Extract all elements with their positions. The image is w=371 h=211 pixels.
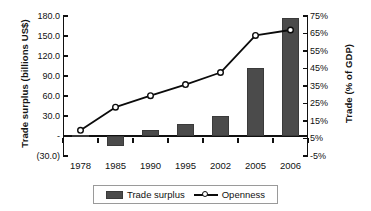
line-marker bbox=[148, 93, 154, 99]
y-axis-left-tick-label: - bbox=[22, 132, 60, 141]
legend-label-openness: Openness bbox=[222, 189, 265, 200]
y-axis-left-tick-label: 90.0 bbox=[22, 72, 60, 81]
x-axis-tick-label: 1990 bbox=[131, 160, 171, 171]
y-axis-left-tick-label: 180.0 bbox=[22, 12, 60, 21]
y-axis-right-tick-label: 15% bbox=[310, 117, 348, 126]
legend-label-trade-surplus: Trade surplus bbox=[127, 189, 185, 200]
y-axis-right-tick-label: 5% bbox=[310, 134, 348, 143]
y-axis-right-tick-label: 65% bbox=[310, 29, 348, 38]
x-axis-tick-label: 1995 bbox=[166, 160, 206, 171]
y-axis-right-tick-label: 45% bbox=[310, 64, 348, 73]
y-axis-left-tick-label: 30.0 bbox=[22, 112, 60, 121]
x-axis-tick-label: 2006 bbox=[271, 160, 311, 171]
y-axis-left-tick-labels: 180.0150.0120.090.060.030.0-(30.0) bbox=[22, 0, 60, 170]
y-axis-left-tick-label: 150.0 bbox=[22, 32, 60, 41]
x-axis-tick-labels: 1978198519901995200220052006 bbox=[63, 160, 308, 174]
chart-legend: Trade surplus Openness bbox=[93, 185, 278, 204]
y-axis-right-tick-labels: 75%65%55%45%35%25%15%5%-5% bbox=[310, 0, 348, 170]
y-axis-right-tick-label: 75% bbox=[310, 12, 348, 21]
plot-area bbox=[63, 16, 308, 156]
legend-item-trade-surplus: Trade surplus bbox=[106, 189, 185, 200]
line-series-openness bbox=[63, 16, 308, 156]
line-marker bbox=[288, 27, 294, 33]
line-circle-swatch-icon bbox=[194, 190, 218, 199]
x-axis-tick-label: 2005 bbox=[236, 160, 276, 171]
y-axis-right-tick-label: -5% bbox=[310, 152, 348, 161]
line-marker bbox=[253, 33, 259, 39]
line-marker bbox=[113, 104, 119, 110]
x-axis-tick-label: 1978 bbox=[61, 160, 101, 171]
y-axis-right-tick-label: 55% bbox=[310, 47, 348, 56]
bar-swatch-icon bbox=[106, 191, 123, 199]
y-axis-left-tick-label: (30.0) bbox=[22, 152, 60, 161]
line-marker bbox=[78, 127, 84, 133]
y-axis-right-tick-label: 35% bbox=[310, 82, 348, 91]
y-axis-left-tick-label: 60.0 bbox=[22, 92, 60, 101]
x-axis-tick-label: 2002 bbox=[201, 160, 241, 171]
legend-item-openness: Openness bbox=[194, 189, 265, 200]
x-axis-tick-label: 1985 bbox=[96, 160, 136, 171]
line-marker bbox=[183, 82, 189, 88]
line-marker bbox=[218, 70, 224, 76]
y-axis-left-tick-label: 120.0 bbox=[22, 52, 60, 61]
y-axis-right-tick-label: 25% bbox=[310, 99, 348, 108]
chart-container: Trade surplus (billions US$) Trade (% of… bbox=[0, 0, 371, 211]
